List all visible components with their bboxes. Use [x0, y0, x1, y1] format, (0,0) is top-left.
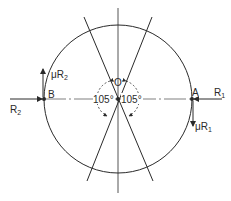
center-point-o: [116, 97, 120, 101]
angle-label-right: 105°: [121, 94, 142, 105]
label-mu-r2: μR2: [51, 69, 68, 81]
point-b-dot: [42, 97, 46, 101]
friction-diagram: O B A R2 μR2 R1 μR1 105° 105°: [0, 0, 231, 201]
label-b: B: [48, 89, 55, 100]
angle-label-left: 105°: [93, 94, 114, 105]
label-mu-r1: μR1: [195, 121, 212, 133]
label-o: O: [114, 77, 122, 88]
label-r1: R1: [214, 87, 225, 99]
label-r2: R2: [10, 104, 21, 116]
label-a: A: [192, 87, 199, 98]
